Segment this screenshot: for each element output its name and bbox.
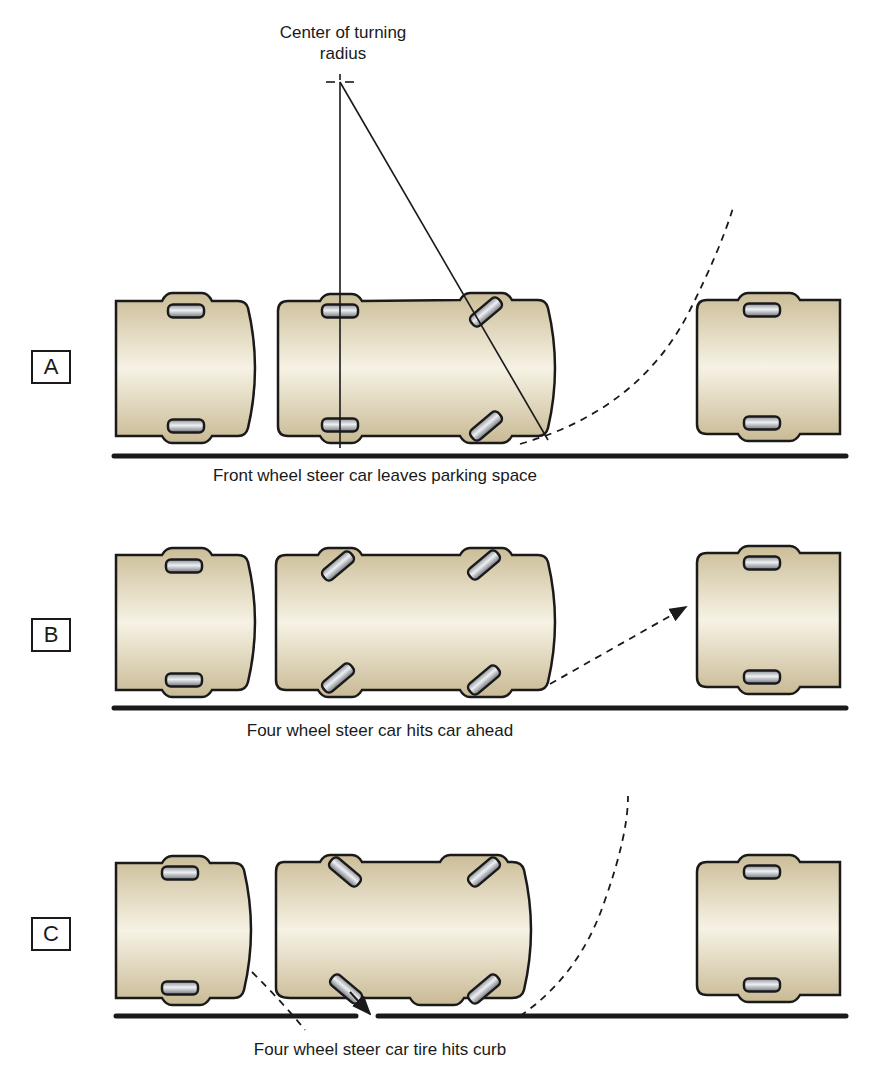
moving-car <box>276 548 555 697</box>
caption-a: Front wheel steer car leaves parking spa… <box>150 466 600 486</box>
moving-car <box>278 293 555 443</box>
parked-car-behind <box>116 293 255 443</box>
parked-car-ahead <box>697 546 840 694</box>
diagram-svg <box>0 0 869 1071</box>
path-front-sweep-c <box>520 796 628 1016</box>
turning-center-label-line1: Center of turning <box>243 22 443 43</box>
panel-b <box>114 546 846 708</box>
moving-car <box>276 855 531 1014</box>
caption-c: Four wheel steer car tire hits curb <box>170 1040 590 1060</box>
panel-label-c: C <box>31 917 71 951</box>
figure-canvas: Center of turning radius A B C Front whe… <box>0 0 869 1071</box>
parked-car-ahead <box>697 855 840 1002</box>
panel-label-b: B <box>31 618 71 652</box>
panel-a <box>114 74 846 456</box>
parked-car-ahead <box>697 293 840 441</box>
panel-label-a: A <box>31 350 71 384</box>
panel-c <box>116 796 846 1030</box>
parked-car-behind <box>116 856 251 1005</box>
turning-center-label: Center of turning radius <box>243 22 443 64</box>
caption-b: Four wheel steer car hits car ahead <box>170 721 590 741</box>
turning-center-label-line2: radius <box>243 43 443 64</box>
parked-car-behind <box>116 548 255 697</box>
path-arrow-b <box>550 607 686 684</box>
